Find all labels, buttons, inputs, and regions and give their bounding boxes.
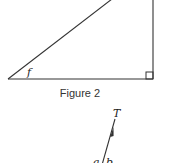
vector-t-label: T: [113, 107, 122, 120]
figure-caption: Figure 2: [60, 87, 100, 99]
hypotenuse: [8, 0, 112, 79]
angle-b-label: b: [106, 156, 113, 163]
vector-diagram: T a b: [93, 107, 122, 163]
right-angle-marker: [146, 72, 153, 79]
angle-f-label: f: [26, 66, 33, 79]
right-triangle: f: [8, 0, 153, 79]
diagram-canvas: f Figure 2 T a b: [0, 0, 181, 163]
angle-a-label: a: [93, 156, 100, 163]
